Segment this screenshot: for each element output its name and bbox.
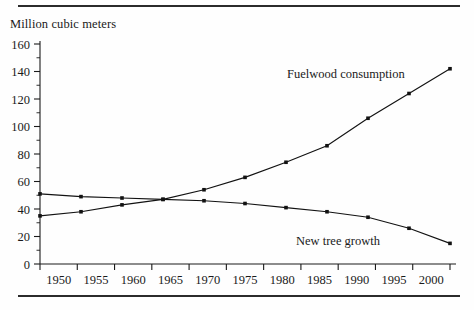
y-tick-label: 0 <box>24 258 30 272</box>
y-tick-label: 100 <box>11 120 30 134</box>
chart-canvas: 0204060801001201401601950195519601965197… <box>0 0 474 310</box>
data-point-marker <box>243 176 247 180</box>
x-tick-label: 1995 <box>382 273 407 287</box>
data-point-marker <box>407 226 411 230</box>
y-tick-label: 40 <box>18 203 31 217</box>
x-tick-label: 1975 <box>233 273 258 287</box>
series-line-fuelwood <box>40 69 450 216</box>
data-point-marker <box>407 92 411 96</box>
x-tick-label: 1985 <box>307 273 332 287</box>
data-point-marker <box>325 210 329 214</box>
x-tick-label: 2000 <box>419 273 444 287</box>
x-tick-label: 1955 <box>83 273 108 287</box>
series-line-new-tree-growth <box>40 194 450 244</box>
x-tick-label: 1965 <box>158 273 183 287</box>
y-tick-label: 20 <box>18 230 31 244</box>
y-tick-label: 120 <box>11 93 30 107</box>
data-point-marker <box>120 196 124 200</box>
data-point-marker <box>325 144 329 148</box>
data-point-marker <box>366 116 370 120</box>
data-point-marker <box>366 215 370 219</box>
x-tick-label: 1990 <box>344 273 369 287</box>
data-point-marker <box>448 67 452 71</box>
data-point-marker <box>448 242 452 246</box>
data-point-marker <box>243 202 247 206</box>
data-point-marker <box>161 198 165 202</box>
x-tick-label: 1950 <box>46 273 71 287</box>
data-point-marker <box>202 199 206 203</box>
y-tick-label: 160 <box>11 38 30 52</box>
x-tick-label: 1960 <box>121 273 146 287</box>
x-tick-label: 1970 <box>195 273 220 287</box>
bottom-divider-rule <box>18 295 460 297</box>
data-point-marker <box>284 206 288 210</box>
data-point-marker <box>120 203 124 207</box>
series-annotation-fuelwood: Fuelwood consumption <box>287 67 405 81</box>
series-annotation-new-tree-growth: New tree growth <box>296 234 381 248</box>
y-tick-label: 60 <box>18 175 31 189</box>
x-tick-label: 1980 <box>270 273 295 287</box>
data-point-marker <box>79 210 83 214</box>
data-point-marker <box>38 192 42 196</box>
y-tick-label: 140 <box>11 65 30 79</box>
y-tick-label: 80 <box>18 148 31 162</box>
line-chart: 0204060801001201401601950195519601965197… <box>0 0 474 310</box>
data-point-marker <box>79 195 83 199</box>
data-point-marker <box>284 160 288 164</box>
data-point-marker <box>202 188 206 192</box>
data-point-marker <box>38 214 42 218</box>
